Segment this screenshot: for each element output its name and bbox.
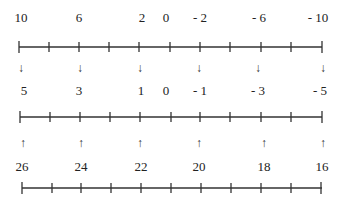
down-arrow-icon: ↓ [320,62,326,74]
top-label: - 10 [308,11,329,24]
middle-label: 5 [21,84,28,97]
down-arrow-icon: ↓ [18,62,24,74]
middle-label: - 3 [251,84,265,97]
down-arrow-icon: ↓ [196,62,202,74]
middle-label: 3 [76,84,83,97]
up-arrow-icon: ↑ [320,137,326,149]
top-label: 2 [139,11,146,24]
middle-label: 1 [138,84,145,97]
middle-label: 0 [163,84,170,97]
down-arrow-icon: ↓ [255,62,261,74]
down-arrow-icon: ↓ [77,62,83,74]
up-arrow-icon: ↑ [261,137,267,149]
up-arrow-icon: ↑ [78,137,84,149]
down-arrow-icon: ↓ [137,62,143,74]
bottom-label: 20 [193,160,206,173]
up-arrow-icon: ↑ [137,137,143,149]
up-arrow-icon: ↑ [20,137,26,149]
number-lines [0,0,345,207]
top-label: 0 [163,11,170,24]
bottom-label: 16 [316,160,329,173]
bottom-label: 26 [16,160,29,173]
bottom-label: 18 [258,160,271,173]
up-arrow-icon: ↑ [196,137,202,149]
top-label: - 6 [252,11,266,24]
bottom-label: 22 [135,160,148,173]
top-label: 10 [15,11,28,24]
middle-label: - 5 [313,84,327,97]
top-label: 6 [76,11,83,24]
middle-label: - 1 [193,84,207,97]
bottom-label: 24 [75,160,88,173]
top-label: - 2 [193,11,207,24]
